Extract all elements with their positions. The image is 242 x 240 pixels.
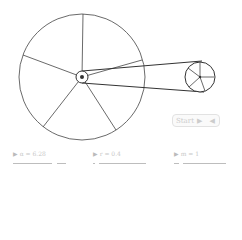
step-back-icon[interactable]: ◀ bbox=[210, 117, 215, 125]
play-icon[interactable]: ▶ bbox=[197, 117, 202, 125]
belt-bottom bbox=[82, 83, 204, 92]
control-label: r = 0.4 bbox=[100, 150, 121, 157]
slider-m-thumb[interactable] bbox=[174, 163, 179, 164]
control-m[interactable]: ▶ m = 1 bbox=[174, 150, 199, 157]
control-label: α = 6.28 bbox=[20, 150, 46, 157]
expand-icon[interactable]: ▶ bbox=[93, 150, 98, 157]
slider-alpha-thumb[interactable] bbox=[57, 163, 66, 164]
animate-label: Start bbox=[176, 117, 194, 125]
control-r[interactable]: ▶ r = 0.4 bbox=[93, 150, 121, 157]
hub bbox=[80, 75, 84, 79]
expand-icon[interactable]: ▶ bbox=[13, 150, 18, 157]
slider-m[interactable] bbox=[183, 163, 226, 164]
animate-button[interactable]: Start ▶ ◀ bbox=[172, 114, 220, 127]
belt-top bbox=[82, 61, 202, 71]
slider-alpha[interactable] bbox=[13, 163, 52, 164]
control-label: m = 1 bbox=[181, 150, 199, 157]
expand-icon[interactable]: ▶ bbox=[174, 150, 179, 157]
slider-r[interactable] bbox=[99, 163, 146, 164]
control-alpha[interactable]: ▶ α = 6.28 bbox=[13, 150, 46, 157]
slider-r-thumb[interactable] bbox=[93, 163, 95, 164]
